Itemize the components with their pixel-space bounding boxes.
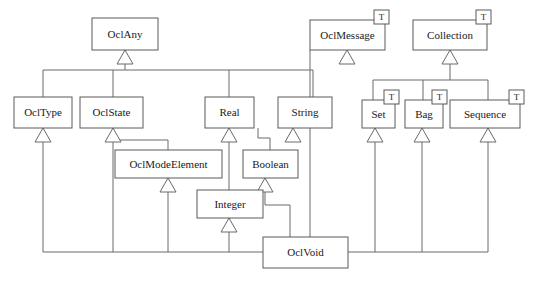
- class-label-collection: Collection: [427, 29, 473, 41]
- template-marker-label-set: T: [389, 92, 395, 102]
- class-label-integer: Integer: [214, 198, 245, 210]
- arrowhead-string: [285, 128, 301, 142]
- arrowhead-real: [221, 128, 237, 142]
- link-oclvoid-right-bus: [348, 128, 488, 252]
- class-label-sequence: Sequence: [464, 108, 506, 120]
- class-label-bag: Bag: [415, 108, 433, 120]
- arrowhead-oclany: [117, 50, 133, 64]
- class-label-string: String: [292, 106, 319, 118]
- class-node-integer[interactable]: Integer: [197, 190, 263, 218]
- class-label-boolean: Boolean: [252, 158, 289, 170]
- link-oclany-bus: [43, 50, 313, 97]
- class-node-set[interactable]: SetT: [362, 90, 399, 128]
- arrowhead-integer: [221, 218, 237, 232]
- class-node-oclvoid[interactable]: OclVoid: [263, 237, 348, 268]
- arrowhead-oclstate: [105, 128, 121, 142]
- class-label-oclmodeelement: OclModeElement: [129, 158, 207, 170]
- class-label-set: Set: [371, 108, 385, 120]
- class-label-real: Real: [219, 106, 239, 118]
- arrowhead-set: [367, 128, 383, 142]
- class-node-string[interactable]: String: [278, 97, 332, 128]
- class-node-collection[interactable]: CollectionT: [413, 10, 491, 50]
- class-label-ocltype: OclType: [24, 106, 62, 118]
- class-node-real[interactable]: Real: [205, 97, 254, 128]
- class-node-bag[interactable]: BagT: [405, 90, 447, 128]
- link-boolean-string: [258, 128, 270, 150]
- arrowhead-oclmessage: [339, 50, 355, 64]
- arrowhead-sequence: [480, 128, 496, 142]
- template-marker-label-oclmessage: T: [379, 12, 385, 22]
- class-node-boolean[interactable]: Boolean: [243, 150, 298, 178]
- class-label-oclvoid: OclVoid: [287, 246, 324, 258]
- template-marker-label-collection: T: [481, 12, 487, 22]
- template-marker-label-sequence: T: [514, 92, 520, 102]
- arrowhead-bag: [414, 128, 430, 142]
- class-node-sequence[interactable]: SequenceT: [450, 90, 524, 128]
- class-label-oclmessage: OclMessage: [320, 29, 374, 41]
- class-node-oclany[interactable]: OclAny: [92, 18, 158, 50]
- arrowhead-collection: [442, 50, 458, 64]
- class-node-oclstate[interactable]: OclState: [80, 97, 143, 128]
- arrowhead-oclmodeelement: [160, 178, 176, 192]
- class-node-oclmodeelement[interactable]: OclModeElement: [115, 150, 222, 178]
- uml-class-diagram: OclAnyOclTypeOclStateRealStringOclMessag…: [0, 0, 535, 282]
- arrowhead-ocltype: [35, 128, 51, 142]
- class-label-oclstate: OclState: [93, 106, 131, 118]
- class-label-oclany: OclAny: [108, 28, 143, 40]
- class-boxes: OclAnyOclTypeOclStateRealStringOclMessag…: [14, 10, 524, 268]
- class-node-oclmessage[interactable]: OclMessageT: [310, 10, 389, 50]
- uml-canvas: OclAnyOclTypeOclStateRealStringOclMessag…: [0, 0, 535, 282]
- template-marker-label-bag: T: [437, 92, 443, 102]
- class-node-ocltype[interactable]: OclType: [14, 97, 72, 128]
